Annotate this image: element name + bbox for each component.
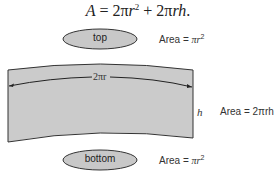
top-area-text: Area =	[159, 34, 192, 45]
side-area-text: Area =	[220, 106, 253, 117]
bottom-disk-label: bottom	[63, 153, 137, 164]
bottom-area-label: Area = πr2	[159, 154, 204, 166]
top-area-exp: 2	[200, 33, 204, 40]
circumference-text: 2πr	[93, 71, 106, 82]
circumference-label: 2πr	[93, 71, 106, 82]
bottom-area-exp: 2	[200, 154, 204, 161]
side-area-label: Area = 2πrh	[220, 106, 274, 117]
cylinder-net-diagram	[0, 0, 276, 174]
height-label: h	[197, 106, 203, 118]
top-disk-label: top	[63, 32, 137, 43]
top-area-label: Area = πr2	[159, 33, 204, 45]
bottom-area-text: Area =	[159, 155, 192, 166]
side-area-value: 2πrh	[253, 106, 274, 117]
